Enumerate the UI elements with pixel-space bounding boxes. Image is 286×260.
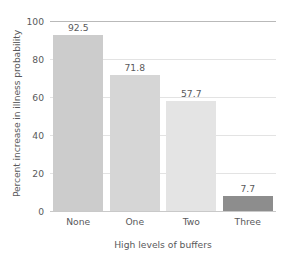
bar-value-label: 92.5 <box>53 22 103 33</box>
bar[interactable] <box>53 35 103 211</box>
bar[interactable] <box>166 101 216 211</box>
x-tick-label: None <box>50 216 107 227</box>
bar-slot: 71.8 <box>110 21 160 211</box>
y-tick-label: 0 <box>38 206 44 217</box>
bar-value-label: 57.7 <box>166 88 216 99</box>
bar[interactable] <box>110 75 160 211</box>
x-tick-label: One <box>107 216 164 227</box>
bar-slot: 92.5 <box>53 21 103 211</box>
y-tick-label: 100 <box>26 16 44 27</box>
bar-value-label: 71.8 <box>110 62 160 73</box>
bar-value-label: 7.7 <box>223 183 273 194</box>
y-axis-title: Percent increase in illness probability <box>11 16 22 212</box>
bar-chart: Percent increase in illness probability … <box>0 0 286 260</box>
bar-slot: 7.7 <box>223 21 273 211</box>
bar-slot: 57.7 <box>166 21 216 211</box>
y-tick-label: 80 <box>32 54 44 65</box>
y-tick-label: 40 <box>32 130 44 141</box>
bar[interactable] <box>223 196 273 211</box>
x-axis-title: High levels of buffers <box>50 239 276 250</box>
x-tick-label: Two <box>163 216 220 227</box>
y-tick-label: 60 <box>32 92 44 103</box>
plot-area: 020406080100 92.571.857.77.7 <box>50 21 276 211</box>
bars: 92.571.857.77.7 <box>50 21 276 211</box>
x-tick-label: Three <box>220 216 277 227</box>
gridline <box>50 211 276 212</box>
y-tick-label: 20 <box>32 168 44 179</box>
